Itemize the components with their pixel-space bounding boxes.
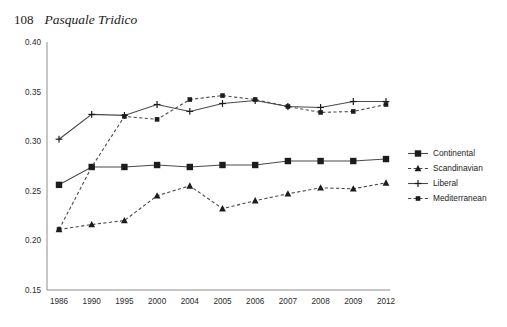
data-point-marker — [383, 179, 390, 185]
data-point-marker — [122, 114, 127, 119]
y-axis-tick-label: 0.20 — [25, 236, 41, 245]
legend-label: Mediterranean — [433, 193, 487, 204]
data-point-marker — [285, 190, 292, 196]
data-point-marker — [219, 162, 225, 168]
x-axis-tick-label: 2008 — [311, 297, 330, 306]
data-point-marker — [121, 217, 128, 223]
line-chart-figure: 0.400.350.300.250.200.15 198619901995200… — [0, 0, 507, 327]
x-axis-tick-label: 2006 — [246, 297, 265, 306]
data-point-marker — [317, 184, 324, 190]
legend-item-scandinavian[interactable]: Scandinavian — [408, 161, 504, 176]
data-point-marker — [188, 97, 193, 102]
data-point-marker — [57, 227, 62, 232]
legend-label: Liberal — [433, 178, 458, 189]
x-axis-tick-label: 2009 — [344, 297, 363, 306]
series-liberal — [56, 97, 390, 142]
data-point-marker — [253, 97, 258, 102]
y-axis-tick-label: 0.40 — [25, 38, 41, 47]
data-point-marker — [56, 182, 62, 188]
chart-legend: ContinentalScandinavianLiberalMediterran… — [408, 146, 504, 206]
y-axis-tick-label: 0.35 — [25, 88, 41, 97]
data-point-marker — [154, 162, 160, 168]
x-axis-tick-label: 2005 — [213, 297, 232, 306]
legend-label: Continental — [433, 148, 475, 159]
legend-item-mediterranean[interactable]: Mediterranean — [408, 191, 504, 206]
data-point-marker — [384, 102, 389, 107]
axis-spines — [47, 42, 390, 290]
x-axis-tick-label: 1986 — [50, 297, 69, 306]
data-point-marker — [415, 150, 421, 156]
x-axis-tick-label: 2004 — [181, 297, 200, 306]
legend-item-continental[interactable]: Continental — [408, 146, 504, 161]
data-point-marker — [186, 182, 193, 188]
series-scandinavian — [56, 179, 390, 232]
y-axis-tick-labels: 0.400.350.300.250.200.15 — [25, 38, 41, 295]
data-point-marker — [252, 197, 259, 203]
data-point-marker — [351, 109, 356, 114]
data-point-marker — [317, 158, 323, 164]
data-point-marker — [220, 93, 225, 98]
legend-label: Scandinavian — [433, 163, 483, 174]
x-axis-tick-label: 2012 — [377, 297, 396, 306]
y-axis-tick-label: 0.15 — [25, 286, 41, 295]
x-axis-tick-label: 1990 — [83, 297, 102, 306]
legend-item-liberal[interactable]: Liberal — [408, 176, 504, 191]
data-point-marker — [252, 162, 258, 168]
data-point-marker — [187, 164, 193, 170]
data-point-marker — [219, 205, 226, 211]
data-point-marker — [318, 110, 323, 115]
data-point-marker — [416, 196, 421, 201]
x-axis-tick-label: 2007 — [279, 297, 298, 306]
legend-swatch-square-small-icon — [408, 193, 428, 204]
x-axis-tick-label: 2000 — [148, 297, 167, 306]
legend-swatch-square-icon — [408, 148, 428, 159]
y-axis-tick-label: 0.25 — [25, 187, 41, 196]
data-point-marker — [286, 104, 291, 109]
data-point-marker — [155, 117, 160, 122]
data-point-marker — [285, 158, 291, 164]
data-series-group — [56, 93, 390, 232]
y-axis-tick-label: 0.30 — [25, 137, 41, 146]
data-point-marker — [350, 158, 356, 164]
data-point-marker — [121, 164, 127, 170]
legend-swatch-triangle-icon — [408, 163, 428, 174]
series-continental — [56, 156, 389, 188]
x-axis-tick-label: 1995 — [115, 297, 134, 306]
legend-swatch-plus-icon — [408, 178, 428, 189]
x-axis-tick-labels: 1986199019952000200420052006200720082009… — [50, 297, 396, 306]
data-point-marker — [383, 156, 389, 162]
data-point-marker — [89, 165, 94, 170]
